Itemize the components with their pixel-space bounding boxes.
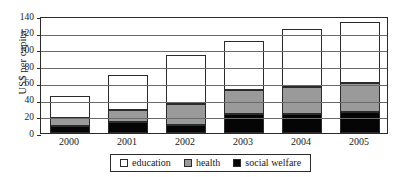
bar-group[interactable] <box>50 16 90 133</box>
y-tick-label: 0 <box>29 130 34 140</box>
bar-group[interactable] <box>224 16 264 133</box>
x-tick-label: 2000 <box>44 136 94 148</box>
bar-segment-social-welfare[interactable] <box>224 114 264 133</box>
bar-segment-social-welfare[interactable] <box>108 122 148 133</box>
plot-area <box>40 17 388 134</box>
bar-segment-education[interactable] <box>108 75 148 110</box>
x-tick-label: 2002 <box>160 136 210 148</box>
bar-group[interactable] <box>340 16 380 133</box>
chart-legend: educationhealthsocial welfare <box>110 154 311 172</box>
stacked-bar-chart: US$ per capita 020406080100120140 200020… <box>0 0 399 177</box>
gridline <box>41 102 387 103</box>
bar-segment-education[interactable] <box>50 96 90 118</box>
gridline <box>41 85 387 86</box>
bar-group[interactable] <box>108 16 148 133</box>
bar-segment-social-welfare[interactable] <box>282 114 322 133</box>
legend-swatch-icon <box>120 159 128 167</box>
gridline <box>41 68 387 69</box>
bar-segment-education[interactable] <box>166 55 206 103</box>
bar-segment-health[interactable] <box>282 87 322 114</box>
x-tick-label: 2005 <box>334 136 384 148</box>
legend-label: education <box>132 158 171 168</box>
x-tick-label: 2003 <box>218 136 268 148</box>
bar-segment-education[interactable] <box>282 29 322 87</box>
y-tick-label: 140 <box>20 13 34 23</box>
x-tick-label: 2004 <box>276 136 326 148</box>
y-tick-label: 100 <box>20 46 34 56</box>
y-axis-tickmark <box>37 18 41 19</box>
gridline <box>41 51 387 52</box>
bar-segment-education[interactable] <box>224 41 264 89</box>
legend-item[interactable]: social welfare <box>233 158 301 168</box>
legend-swatch-icon <box>184 159 192 167</box>
bar-group[interactable] <box>282 16 322 133</box>
y-tick-label: 80 <box>25 63 35 73</box>
legend-label: social welfare <box>245 158 301 168</box>
y-tick-label: 60 <box>25 79 35 89</box>
x-axis-tick-labels: 200020012002200320042005 <box>40 136 388 150</box>
gridline <box>41 118 387 119</box>
bar-group[interactable] <box>166 16 206 133</box>
bar-segment-social-welfare[interactable] <box>166 125 206 133</box>
y-tick-label: 40 <box>25 96 35 106</box>
legend-swatch-icon <box>233 159 241 167</box>
bar-segment-health[interactable] <box>166 104 206 125</box>
bar-segment-social-welfare[interactable] <box>340 112 380 133</box>
bar-segment-health[interactable] <box>108 110 148 123</box>
bar-segment-social-welfare[interactable] <box>50 126 90 133</box>
x-tick-label: 2001 <box>102 136 152 148</box>
legend-label: health <box>196 158 220 168</box>
y-tick-label: 20 <box>25 113 35 123</box>
gridline <box>41 35 387 36</box>
legend-item[interactable]: health <box>184 158 220 168</box>
y-tick-label: 120 <box>20 29 34 39</box>
y-axis-tick-labels: 020406080100120140 <box>0 0 37 177</box>
legend-item[interactable]: education <box>120 158 171 168</box>
bar-segment-health[interactable] <box>340 83 380 112</box>
